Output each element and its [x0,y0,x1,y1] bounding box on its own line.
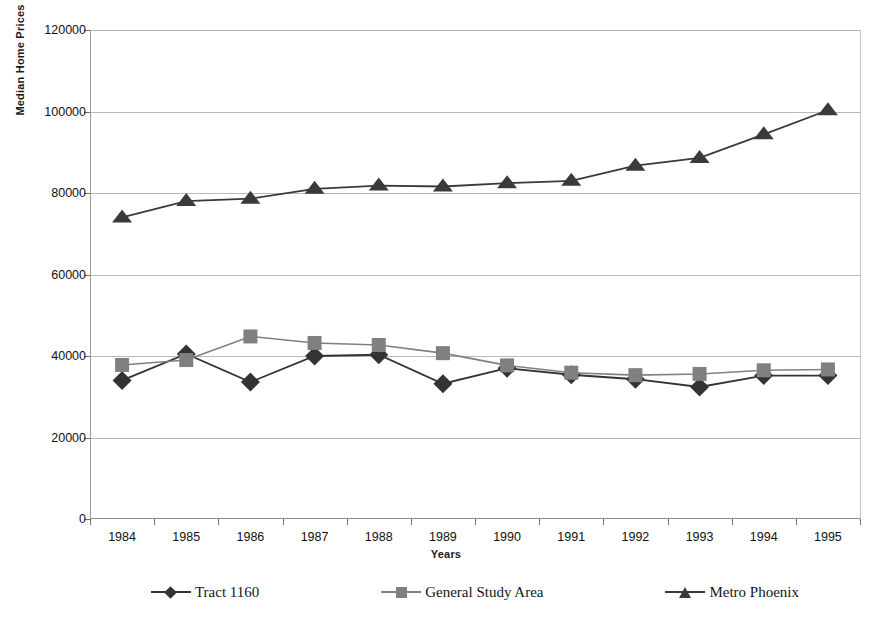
x-tick-label: 1990 [472,530,542,544]
legend-marker-triangle [665,585,705,599]
plot-right-border [860,30,861,520]
gridline [91,356,860,357]
legend-label: General Study Area [425,585,543,600]
legend-marker-diamond [151,585,191,599]
x-tick-mark [347,519,348,525]
legend-marker-square [381,585,421,599]
plot-top-border [90,30,861,31]
y-tick-label: 0 [0,512,86,526]
legend-label: Tract 1160 [195,585,259,600]
chart-legend: Tract 1160General Study AreaMetro Phoeni… [90,578,860,606]
x-tick-mark [154,519,155,525]
gridline [91,275,860,276]
x-tick-mark [218,519,219,525]
x-tick-label: 1986 [215,530,285,544]
legend-item[interactable]: Tract 1160 [151,585,259,600]
x-tick-label: 1993 [665,530,735,544]
x-tick-label: 1988 [344,530,414,544]
x-tick-mark [668,519,669,525]
x-tick-label: 1995 [793,530,863,544]
x-tick-label: 1985 [151,530,221,544]
y-tick-label: 40000 [0,349,86,363]
chart-figure: Median Home Prices 020000400006000080000… [0,0,892,628]
x-tick-mark [860,519,861,525]
y-tick-label: 80000 [0,186,86,200]
x-tick-label: 1991 [536,530,606,544]
y-tick-label: 60000 [0,268,86,282]
x-tick-label: 1984 [87,530,157,544]
legend-item[interactable]: General Study Area [381,585,543,600]
x-tick-label: 1994 [729,530,799,544]
y-tick-label: 20000 [0,431,86,445]
x-tick-label: 1987 [280,530,350,544]
x-axis-title: Years [0,548,892,560]
gridline [91,112,860,113]
x-tick-mark [603,519,604,525]
x-tick-mark [411,519,412,525]
x-tick-mark [539,519,540,525]
gridline [91,193,860,194]
x-tick-label: 1992 [600,530,670,544]
y-tick-label: 100000 [0,105,86,119]
y-tick-label: 120000 [0,23,86,37]
legend-label: Metro Phoenix [709,585,799,600]
x-tick-mark [475,519,476,525]
x-tick-mark [90,519,91,525]
x-tick-mark [283,519,284,525]
plot-area [90,30,860,519]
x-tick-mark [732,519,733,525]
x-tick-mark [796,519,797,525]
x-tick-label: 1989 [408,530,478,544]
gridline [91,438,860,439]
legend-item[interactable]: Metro Phoenix [665,585,799,600]
